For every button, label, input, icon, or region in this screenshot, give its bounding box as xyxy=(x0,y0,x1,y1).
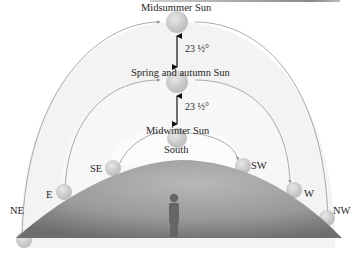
midsummer-sun-label: Midsummer Sun xyxy=(141,3,211,14)
lower-angle-label: 23 ½° xyxy=(185,102,209,112)
equinox-sun-label: Spring and autumn Sun xyxy=(131,68,230,79)
midwinter-sun-label: Midwinter Sun xyxy=(146,126,209,137)
midsummer-sun xyxy=(166,11,188,33)
compass-w-label: W xyxy=(304,189,314,200)
compass-south-label: South xyxy=(164,145,189,156)
compass-sw-label: SW xyxy=(251,161,267,172)
compass-ne-label: NE xyxy=(10,206,24,217)
upper-angle-label: 23 ½° xyxy=(185,44,209,54)
compass-e-label: E xyxy=(46,190,52,201)
sun-e xyxy=(56,184,72,200)
compass-se-label: SE xyxy=(90,164,102,175)
compass-nw-label: NW xyxy=(333,206,351,217)
observer-person-icon xyxy=(169,194,179,237)
